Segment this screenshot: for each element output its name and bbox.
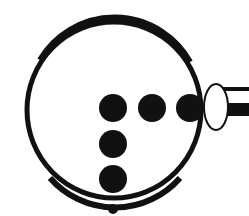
diagram-canvas xyxy=(0,0,249,216)
dot-far-right xyxy=(176,94,204,122)
connector-ellipse xyxy=(204,84,228,130)
dot-lower xyxy=(99,130,127,158)
dot-center xyxy=(99,94,127,122)
dot-small-outside xyxy=(108,204,118,214)
dot-bottom xyxy=(99,165,127,193)
dot-right xyxy=(138,94,166,122)
rod-top-line xyxy=(222,87,249,91)
